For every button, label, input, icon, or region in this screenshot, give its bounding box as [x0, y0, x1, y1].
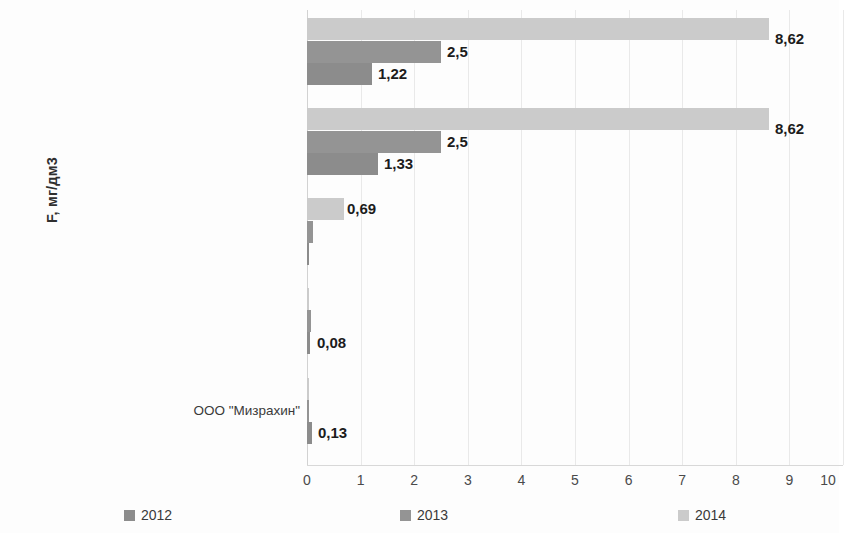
legend-label-2012: 2012: [141, 507, 172, 523]
bar-2012-g4[interactable]: [307, 422, 312, 444]
bar-2013-g3[interactable]: [307, 310, 311, 332]
gridline-3: [468, 10, 469, 465]
x-tick-6: 6: [609, 472, 649, 488]
y-axis-title: F, мг/дм3: [44, 120, 68, 260]
x-tick-0: 0: [287, 472, 327, 488]
bar-2012-g1[interactable]: [307, 153, 378, 175]
legend-label-2013: 2013: [417, 507, 448, 523]
gridline-10: [843, 10, 844, 465]
bar-2013-g0[interactable]: [307, 41, 441, 63]
gridline-4: [521, 10, 522, 465]
gridline-7: [682, 10, 683, 465]
x-tick-9: 9: [769, 472, 809, 488]
gridline-5: [575, 10, 576, 465]
bar-2013-g2[interactable]: [307, 221, 313, 243]
bar-2012-g0[interactable]: [307, 63, 372, 85]
legend-swatch-icon-2012: [124, 510, 135, 521]
legend-item-2014[interactable]: 2014: [678, 507, 726, 523]
x-tick-3: 3: [448, 472, 488, 488]
bar-value-2013-g3: 0,08: [317, 332, 346, 354]
x-tick-2: 2: [394, 472, 434, 488]
bar-value-2014-g1: 8,62: [775, 118, 804, 140]
bar-2014-g4[interactable]: [307, 378, 309, 400]
category-label-4: ООО "Мизрахин": [60, 403, 300, 418]
x-tick-8: 8: [716, 472, 756, 488]
bar-value-2014-g0: 8,62: [775, 28, 804, 50]
legend: 2012 2013 2014: [0, 505, 839, 529]
gridline-9: [789, 10, 790, 465]
bar-2013-g1[interactable]: [307, 131, 441, 153]
gridline-6: [629, 10, 630, 465]
bar-value-2013-g0: 2,5: [447, 41, 468, 63]
bar-value-2013-g1: 2,5: [447, 131, 468, 153]
legend-item-2012[interactable]: 2012: [124, 507, 172, 523]
bar-value-2012-g0: 1,22: [378, 63, 407, 85]
x-tick-7: 7: [662, 472, 702, 488]
bar-2014-g2[interactable]: [307, 198, 344, 220]
bar-2012-g2[interactable]: [307, 243, 309, 265]
bar-value-2014-g2: 0,69: [347, 198, 376, 220]
legend-label-2014: 2014: [695, 507, 726, 523]
legend-swatch-icon-2014: [678, 510, 689, 521]
bar-value-2012-g1: 1,33: [384, 153, 413, 175]
gridline-8: [736, 10, 737, 465]
bar-2014-g0[interactable]: [307, 18, 769, 40]
bar-2014-g1[interactable]: [307, 108, 769, 130]
bar-2014-g3[interactable]: [307, 288, 309, 310]
x-tick-5: 5: [555, 472, 595, 488]
plot-area: 8,62 2,5 1,22 8,62 2,5 1,33 0,69 0,: [307, 10, 843, 465]
x-tick-1: 1: [341, 472, 381, 488]
bar-value-2012-g4: 0,13: [318, 422, 347, 444]
x-axis-line: [307, 465, 843, 466]
bar-2013-g4[interactable]: [307, 400, 309, 422]
x-tick-4: 4: [501, 472, 541, 488]
gridline-2: [414, 10, 415, 465]
x-tick-10: 10: [808, 472, 848, 488]
legend-item-2013[interactable]: 2013: [400, 507, 448, 523]
bar-2012-g3[interactable]: [307, 332, 310, 354]
legend-swatch-icon-2013: [400, 510, 411, 521]
